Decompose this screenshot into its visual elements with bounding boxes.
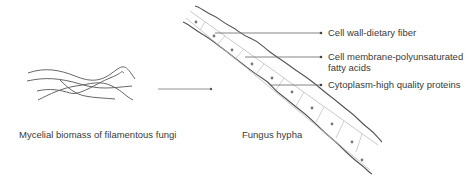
mycelium-filaments-icon [27,67,135,100]
annotation-cell-membrane: Cell membrane-polyunsaturated fatty acid… [328,51,469,73]
caption-fungus-hypha: Fungus hypha [242,129,302,140]
annotation-cell-wall: Cell wall-dietary fiber [328,27,416,38]
arrow-to-hypha [158,88,212,90]
annotation-cytoplasm: Cytoplasm-high quality proteins [328,79,461,90]
caption-mycelial-biomass: Mycelial biomass of filamentous fungi [19,129,176,140]
annotation-arrows [215,33,320,85]
